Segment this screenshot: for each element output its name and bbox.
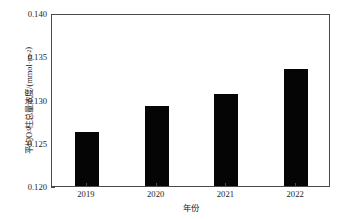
plot-area	[51, 14, 330, 187]
x-axis-title: 年份	[51, 201, 330, 213]
x-axis-tick-mark	[295, 183, 296, 187]
x-axis-tick-mark	[225, 183, 226, 187]
chart-figure: 平均O3柱总量浓度/(mmol·m-2) 0.1200.1250.1300.13…	[0, 0, 345, 219]
y-axis-tick-labels: 0.1200.1250.1300.1350.140	[0, 14, 47, 187]
y-axis-tick-label: 0.125	[3, 139, 47, 149]
x-axis-tick-label: 2022	[265, 189, 325, 199]
x-axis-tick-label: 2019	[56, 189, 116, 199]
bar	[75, 132, 99, 186]
y-axis-tick-label: 0.120	[3, 182, 47, 192]
x-axis-tick-mark	[156, 183, 157, 187]
y-axis-tick-label: 0.130	[3, 96, 47, 106]
bar	[145, 106, 169, 186]
y-axis-tick-label: 0.135	[3, 52, 47, 62]
x-axis-tick-marks	[51, 183, 330, 188]
x-axis-tick-label: 2021	[195, 189, 255, 199]
bar	[214, 94, 238, 186]
x-axis-tick-label: 2020	[126, 189, 186, 199]
y-axis-tick-label: 0.140	[3, 9, 47, 19]
x-axis-tick-mark	[86, 183, 87, 187]
bar	[284, 69, 308, 186]
